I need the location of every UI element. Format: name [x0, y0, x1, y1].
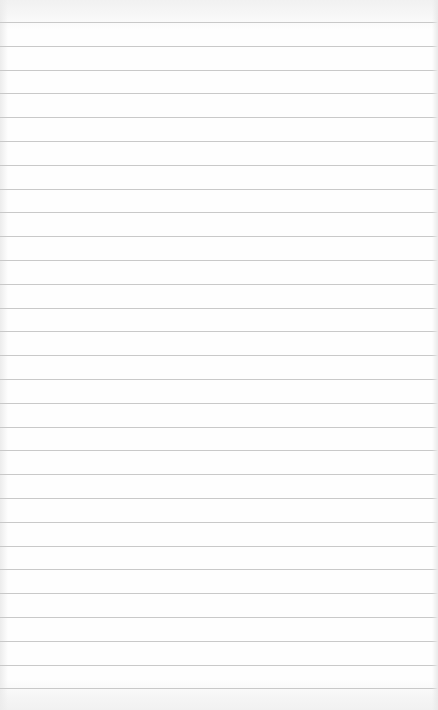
ruled-line — [0, 617, 438, 618]
ruled-paper — [0, 0, 438, 710]
ruled-line — [0, 403, 438, 404]
ruled-line — [0, 522, 438, 523]
ruled-line — [0, 212, 438, 213]
ruled-line — [0, 93, 438, 94]
ruled-line — [0, 498, 438, 499]
ruled-line — [0, 284, 438, 285]
ruled-line — [0, 474, 438, 475]
ruled-line — [0, 593, 438, 594]
ruled-line — [0, 427, 438, 428]
ruled-line — [0, 260, 438, 261]
ruled-line — [0, 379, 438, 380]
ruled-line — [0, 236, 438, 237]
ruled-line — [0, 331, 438, 332]
ruled-line — [0, 546, 438, 547]
ruled-line — [0, 189, 438, 190]
ruled-line — [0, 165, 438, 166]
ruled-line — [0, 665, 438, 666]
ruled-line — [0, 70, 438, 71]
ruled-line — [0, 22, 438, 23]
ruled-line — [0, 117, 438, 118]
ruled-line — [0, 141, 438, 142]
ruled-line — [0, 569, 438, 570]
ruled-line — [0, 688, 438, 689]
ruled-line — [0, 355, 438, 356]
ruled-line — [0, 308, 438, 309]
ruled-line — [0, 46, 438, 47]
ruled-line — [0, 450, 438, 451]
ruled-line — [0, 641, 438, 642]
